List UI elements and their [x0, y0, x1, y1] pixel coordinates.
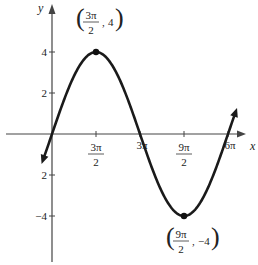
point-marker [93, 49, 99, 55]
paren-left: ( [166, 222, 175, 251]
label-sep: , [102, 16, 105, 28]
label-sep: , [192, 235, 195, 247]
sine-graph: x y 3π23π9π26π 422−4 (3π2,4)(9π2,−4) [0, 0, 258, 265]
axes [6, 4, 246, 262]
y-axis-label: y [37, 1, 44, 15]
x-tick-label-num: 3π [90, 141, 102, 153]
curve-left-arrow-icon [41, 154, 49, 164]
label-y: −4 [198, 235, 210, 247]
curve-right-arrow-icon [230, 108, 238, 118]
label-num: 9π [175, 228, 187, 240]
point-label: (3π2,4) [76, 3, 124, 36]
point-marker [181, 213, 187, 219]
x-axis-label: x [249, 139, 256, 153]
point-label: (9π2,−4) [166, 222, 220, 255]
paren-right: ) [115, 3, 124, 32]
y-tick-label: −4 [35, 210, 47, 222]
y-tick-label: 2 [42, 87, 48, 99]
label-num: 3π [85, 9, 97, 21]
label-den: 2 [178, 243, 184, 255]
paren-right: ) [211, 222, 220, 251]
x-ticks: 3π23π9π26π [88, 131, 236, 168]
annotations: (3π2,4)(9π2,−4) [76, 3, 220, 255]
y-axis-arrow-icon [49, 4, 56, 14]
label-y: 4 [108, 16, 114, 28]
y-tick-label: 2 [42, 169, 48, 181]
x-axis-arrow-icon [237, 131, 246, 138]
label-den: 2 [88, 24, 94, 36]
x-tick-label-num: 9π [178, 141, 190, 153]
y-tick-label: 4 [42, 46, 48, 58]
x-tick-label-den: 2 [93, 156, 99, 168]
x-tick-label-den: 2 [181, 156, 187, 168]
paren-left: ( [76, 3, 85, 32]
